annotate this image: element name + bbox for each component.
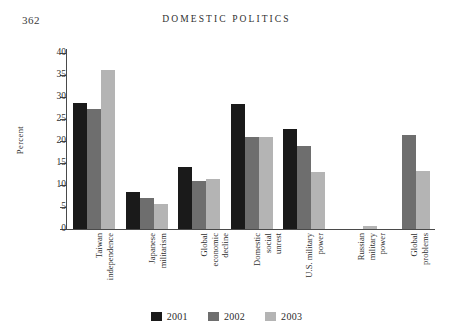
bar: [297, 146, 311, 229]
legend-swatch: [265, 312, 276, 321]
y-axis-line: [66, 49, 67, 230]
bar-group: [231, 40, 273, 229]
bar: [259, 137, 273, 229]
bar: [126, 192, 140, 229]
y-axis-tick-label: 0: [14, 224, 66, 234]
chart-legend: 200120022003: [0, 311, 453, 322]
legend-item: 2001: [151, 311, 188, 322]
bar: [245, 137, 259, 229]
bar: [231, 104, 245, 229]
category-label-line: U.S. military: [304, 233, 315, 278]
bar-group: [126, 40, 168, 229]
bar: [87, 109, 101, 229]
running-head: DOMESTIC POLITICS: [0, 14, 453, 24]
bar: [73, 103, 87, 229]
bar: [154, 204, 168, 229]
category-label-line: Taiwan: [94, 233, 105, 280]
y-axis-tick-label: 40: [14, 48, 66, 58]
bar: [140, 198, 154, 229]
legend-item: 2003: [265, 311, 302, 322]
category-label-line: problems: [419, 233, 430, 265]
legend-item: 2002: [208, 311, 245, 322]
legend-label: 2003: [281, 311, 302, 322]
bar-group: [178, 40, 220, 229]
category-label-line: economic: [210, 233, 221, 266]
category-label-line: power: [377, 233, 388, 260]
bar-groups: [68, 40, 435, 229]
legend-swatch: [208, 312, 219, 321]
category-label-line: militarism: [157, 233, 168, 268]
bar-group: [335, 40, 377, 229]
category-label-line: Global: [409, 233, 420, 265]
category-label-line: Global: [199, 233, 210, 266]
y-axis-tick-label: 35: [14, 70, 66, 80]
category-label-line: social: [262, 233, 273, 266]
category-label-line: Domestic: [252, 233, 263, 266]
y-axis-tick-label: 10: [14, 180, 66, 190]
legend-label: 2001: [167, 311, 188, 322]
bar: [363, 226, 377, 229]
bar: [101, 70, 115, 229]
bar-group: [283, 40, 325, 229]
category-label-line: independence: [105, 233, 116, 280]
bar: [311, 172, 325, 229]
legend-label: 2002: [224, 311, 245, 322]
category-label-line: unrest: [273, 233, 284, 266]
bar: [283, 129, 297, 229]
legend-swatch: [151, 312, 162, 321]
category-label-line: power: [314, 233, 325, 278]
bar: [192, 181, 206, 229]
bar-chart-figure: 0510152025303540 Percent Taiwanindepende…: [0, 40, 453, 328]
bar-group: [73, 40, 115, 229]
bar: [178, 167, 192, 229]
bar-group: [388, 40, 430, 229]
category-label-line: Japanese: [147, 233, 158, 268]
bar: [206, 179, 220, 229]
x-axis-line: [66, 229, 435, 230]
y-axis-tick-label: 5: [14, 202, 66, 212]
plot-area: 0510152025303540 Percent: [0, 40, 453, 240]
bar: [416, 171, 430, 229]
category-label-line: Russian: [356, 233, 367, 260]
bar: [402, 135, 416, 229]
category-label-line: decline: [220, 233, 231, 266]
y-axis-title: Percent: [15, 100, 25, 180]
category-label-line: military: [367, 233, 378, 260]
